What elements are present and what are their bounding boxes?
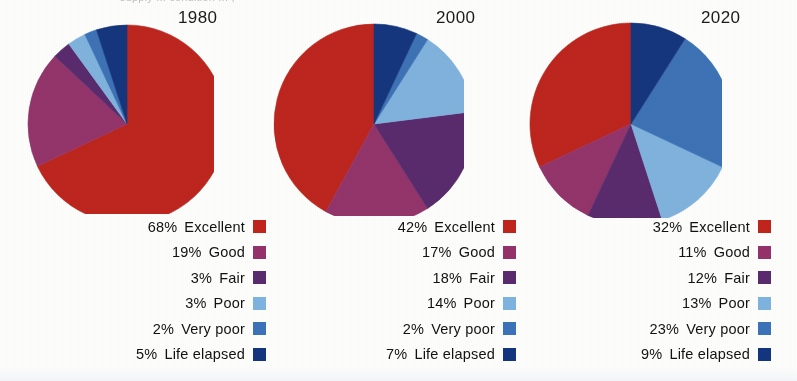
legend-swatch-icon [758,220,771,233]
pie-chart-2000 [262,12,464,216]
legend-percent: 17% [422,244,452,260]
legend-item[interactable]: 68% Excellent [0,214,266,240]
legend-swatch-icon [758,348,771,361]
legend-label: Life elapsed [164,346,245,362]
legend-label: Fair [219,270,245,286]
legend-item[interactable]: 2% Very poor [250,316,516,342]
legend-percent: 11% [678,244,707,260]
legend-percent: 14% [427,295,457,311]
legend-percent: 23% [650,321,680,337]
pie-wrap-2000 [262,12,464,216]
legend-swatch-icon [758,271,771,284]
legend-item[interactable]: 42% Excellent [250,214,516,240]
legend-swatch-icon [758,246,771,259]
legend-item[interactable]: 2% Very poor [0,316,266,342]
legend-1980: 68% Excellent 19% Good 3% Fair 3% Poor 2… [0,214,284,367]
legend-item[interactable]: 23% Very poor [505,316,771,342]
legend-percent: 42% [398,219,428,235]
legend-label: Excellent [184,219,245,235]
legend-item[interactable]: 12% Fair [505,265,771,291]
legend-item[interactable]: 32% Excellent [505,214,771,240]
legend-label: Fair [469,270,495,286]
chart-panel-2020: 2020 32% Excellent 11% Good 12% Fair 13%… [505,0,771,381]
legend-item[interactable]: 7% Life elapsed [250,342,516,368]
legend-percent: 32% [653,219,683,235]
legend-percent: 68% [148,219,178,235]
chart-panel-1980: 1980 68% Excellent 19% Good 3% Fair 3% P… [0,0,266,381]
legend-item[interactable]: 9% Life elapsed [505,342,771,368]
legend-label: Poor [464,295,495,311]
legend-swatch-icon [758,322,771,335]
legend-item[interactable]: 3% Fair [0,265,266,291]
legend-percent: 7% [386,346,407,362]
pie-chart-1980 [14,12,214,214]
legend-label: Very poor [686,321,750,337]
legend-2020: 32% Excellent 11% Good 12% Fair 13% Poor… [505,214,781,367]
legend-label: Excellent [434,219,495,235]
legend-label: Good [459,244,495,260]
legend-label: Life elapsed [414,346,495,362]
legend-percent: 19% [172,244,202,260]
legend-item[interactable]: 3% Poor [0,291,266,317]
legend-percent: 9% [641,346,662,362]
legend-percent: 5% [136,346,157,362]
pie-chart-figure: supply ... condition ... , 1980 68% Exce… [0,0,797,381]
legend-label: Good [714,244,750,260]
legend-percent: 2% [153,321,174,337]
pie-wrap-2020 [518,12,722,218]
legend-label: Life elapsed [669,346,750,362]
legend-label: Fair [724,270,750,286]
pie-wrap-1980 [14,12,214,214]
legend-item[interactable]: 18% Fair [250,265,516,291]
legend-swatch-icon [758,297,771,310]
legend-percent: 2% [403,321,424,337]
legend-percent: 3% [191,270,212,286]
legend-item[interactable]: 17% Good [250,240,516,266]
legend-label: Poor [214,295,245,311]
legend-label: Poor [719,295,750,311]
legend-percent: 3% [185,295,206,311]
legend-item[interactable]: 13% Poor [505,291,771,317]
year-label-2000: 2000 [436,8,475,28]
legend-item[interactable]: 14% Poor [250,291,516,317]
legend-2000: 42% Excellent 17% Good 18% Fair 14% Poor… [250,214,530,367]
legend-item[interactable]: 19% Good [0,240,266,266]
legend-percent: 12% [688,270,718,286]
legend-item[interactable]: 5% Life elapsed [0,342,266,368]
year-label-1980: 1980 [178,8,217,28]
legend-percent: 18% [433,270,463,286]
legend-item[interactable]: 11% Good [505,240,771,266]
legend-label: Very poor [181,321,245,337]
legend-label: Very poor [431,321,495,337]
chart-panel-2000: 2000 42% Excellent 17% Good 18% Fair 14%… [250,0,516,381]
legend-label: Good [209,244,245,260]
pie-chart-2020 [518,12,722,218]
legend-label: Excellent [689,219,750,235]
year-label-2020: 2020 [701,8,740,28]
legend-percent: 13% [682,295,712,311]
